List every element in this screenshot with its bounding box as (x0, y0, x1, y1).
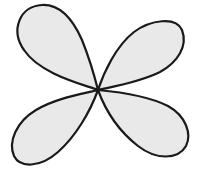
lobe-lower-left (12, 90, 98, 165)
diagram-canvas (0, 0, 202, 171)
lobe-upper-right (98, 21, 184, 90)
four-lobe-orbital-diagram (0, 0, 202, 171)
lobe-upper-left (18, 5, 98, 90)
lobe-lower-right (98, 90, 188, 157)
